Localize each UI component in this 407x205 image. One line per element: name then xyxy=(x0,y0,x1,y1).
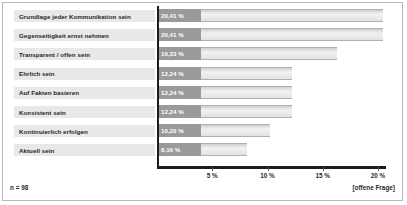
bar-row: Ehrlich sein12,24 % xyxy=(0,67,407,80)
bar-row: Grundlage jeder Kommunikation sein20,41 … xyxy=(0,9,407,22)
category-label: Auf Fakten basieren xyxy=(14,86,155,99)
category-label: Transparent / offen sein xyxy=(14,47,155,60)
plot-area: Grundlage jeder Kommunikation sein20,41 … xyxy=(0,0,407,205)
category-label: Ehrlich sein xyxy=(14,67,155,80)
bar xyxy=(201,143,247,156)
chart-figure: Grundlage jeder Kommunikation sein20,41 … xyxy=(0,0,407,205)
bar-value-label: 20,41 % xyxy=(157,28,201,41)
category-label: Kontinuierlich erfolgen xyxy=(14,124,155,137)
bar-row: Konsistent sein12,24 % xyxy=(0,105,407,118)
x-axis-line xyxy=(157,167,386,169)
bar-row: Gegenseitigkeit ernst nehmen20,41 % xyxy=(0,28,407,41)
bar-row: Auf Fakten basieren12,24 % xyxy=(0,86,407,99)
x-tick-label: 15 % xyxy=(315,172,330,179)
bar xyxy=(201,28,383,41)
x-tick-label: 20 % xyxy=(371,172,386,179)
bar xyxy=(201,86,292,99)
bar xyxy=(201,124,270,137)
x-tick-label: 5 % xyxy=(207,172,218,179)
bar-row: Transparent / offen sein16,33 % xyxy=(0,47,407,60)
category-label: Aktuell sein xyxy=(14,143,155,156)
x-tick xyxy=(378,167,379,171)
category-label: Grundlage jeder Kommunikation sein xyxy=(14,9,155,22)
bar xyxy=(201,67,292,80)
bar xyxy=(201,105,292,118)
question-type-note: [offene Frage] xyxy=(352,184,395,191)
bar-row: Aktuell sein8,16 % xyxy=(0,143,407,156)
bar-value-label: 12,24 % xyxy=(157,105,201,118)
bar-value-label: 12,24 % xyxy=(157,67,201,80)
bar-value-label: 8,16 % xyxy=(157,143,201,156)
x-tick xyxy=(212,167,213,171)
bar xyxy=(201,9,383,22)
bar-value-label: 10,20 % xyxy=(157,124,201,137)
category-label: Konsistent sein xyxy=(14,105,155,118)
x-tick xyxy=(323,167,324,171)
sample-size-note: n = 98 xyxy=(10,184,28,191)
category-label: Gegenseitigkeit ernst nehmen xyxy=(14,28,155,41)
x-tick-label: 10 % xyxy=(260,172,275,179)
bar-value-label: 12,24 % xyxy=(157,86,201,99)
bar-row: Kontinuierlich erfolgen10,20 % xyxy=(0,124,407,137)
bar xyxy=(201,47,337,60)
bar-value-label: 16,33 % xyxy=(157,47,201,60)
bar-value-label: 20,41 % xyxy=(157,9,201,22)
x-tick xyxy=(268,167,269,171)
